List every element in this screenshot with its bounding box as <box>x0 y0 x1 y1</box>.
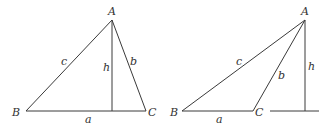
side-a-label: a <box>85 113 92 126</box>
side-b-label: b <box>278 69 285 82</box>
vertex-c-label: C <box>148 106 157 119</box>
vertex-b-label: B <box>169 106 178 119</box>
acute-triangle-figure: A B C a b c h <box>11 5 157 126</box>
triangle-abc <box>26 20 146 111</box>
vertex-a-label: A <box>300 5 309 18</box>
side-c-label: c <box>61 55 67 68</box>
height-h-label: h <box>103 61 110 74</box>
vertex-c-label: C <box>255 106 264 119</box>
vertex-b-label: B <box>11 106 20 119</box>
side-c-label: c <box>236 55 242 68</box>
obtuse-triangle-figure: A B C a b c h <box>169 5 319 126</box>
triangle-abc <box>182 20 305 111</box>
side-a-label: a <box>216 113 223 126</box>
height-h-label: h <box>308 60 315 73</box>
vertex-a-label: A <box>107 5 116 18</box>
side-b-label: b <box>130 55 137 68</box>
triangle-diagram: A B C a b c h A B C a b c h <box>0 0 334 128</box>
